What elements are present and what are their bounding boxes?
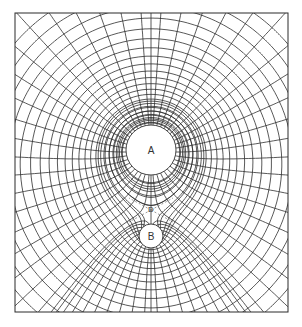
- field-line: [45, 8, 134, 131]
- field-line: [164, 171, 294, 257]
- field-line: [120, 7, 145, 126]
- field-line: [174, 71, 293, 141]
- field-line: [10, 166, 133, 214]
- charge-a-label: A: [148, 145, 155, 156]
- charge-b-label: B: [148, 231, 155, 242]
- field-line: [170, 8, 290, 134]
- field-diagram: A B D: [0, 0, 302, 327]
- field-line: [157, 174, 294, 312]
- field-line: [145, 248, 150, 317]
- field-line: [157, 7, 182, 126]
- field-line: [9, 171, 138, 257]
- field-line: [12, 8, 132, 134]
- saddle-point-label: D: [148, 205, 154, 214]
- field-line: [163, 238, 210, 318]
- field-line: [92, 238, 139, 318]
- field-line: [74, 8, 138, 129]
- field-line: [167, 8, 256, 131]
- field-line: [164, 8, 228, 129]
- field-line: [153, 248, 158, 317]
